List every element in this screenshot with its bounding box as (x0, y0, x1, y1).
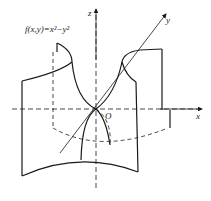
hidden-edges (53, 52, 168, 145)
x-axis-label: x (195, 111, 200, 121)
function-label: f(x,y)=x²−y² (25, 24, 70, 34)
z-axis-label: z (87, 8, 92, 18)
saddle-surface-figure: f(x,y)=x²−y² z y x O (0, 0, 211, 201)
y-axis-label: y (165, 15, 170, 25)
saddle-diagram-svg: f(x,y)=x²−y² z y x O (0, 0, 211, 201)
origin-label: O (105, 111, 112, 121)
saddle-surface (22, 43, 170, 176)
